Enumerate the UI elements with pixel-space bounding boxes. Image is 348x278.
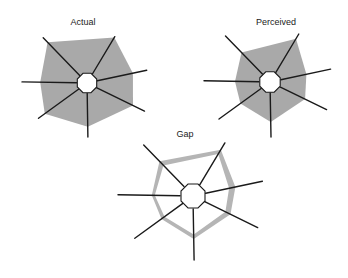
center-hub xyxy=(77,73,96,92)
center-hub xyxy=(260,72,280,92)
axis-line-7 xyxy=(118,195,180,196)
radar-chart-actual: Actual xyxy=(22,17,147,137)
chart-title-perceived: Perceived xyxy=(256,17,296,27)
radar-figure: Actual Perceived Gap xyxy=(0,0,348,278)
axis-line-1 xyxy=(144,145,184,187)
axis-line-7 xyxy=(22,82,77,83)
axis-line-2 xyxy=(200,143,225,185)
chart-title-gap: Gap xyxy=(176,129,193,139)
center-hub xyxy=(181,184,205,208)
axis-line-7 xyxy=(204,81,259,82)
axis-line-5 xyxy=(193,209,194,260)
chart-title-actual: Actual xyxy=(70,17,95,27)
radar-chart-perceived: Perceived xyxy=(204,17,331,137)
axis-line-5 xyxy=(87,94,88,138)
axis-line-5 xyxy=(270,93,271,137)
radar-chart-gap: Gap xyxy=(118,129,262,260)
